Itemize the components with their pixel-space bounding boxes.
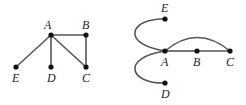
node-label-D: D [160,87,170,101]
edge-A-E [135,19,165,51]
node-D [48,64,53,69]
node-C [83,64,88,69]
node-E [13,64,18,69]
node-B [194,48,199,53]
node-label-A: A [43,18,52,32]
node-D [162,80,167,85]
right-graph: EABCD [135,1,235,101]
node-A [48,32,53,37]
graph-diagram: ABCDE EABCD [0,0,246,105]
edge-A-C [51,35,86,67]
node-label-D: D [46,71,56,85]
node-C [227,48,232,53]
node-E [162,16,167,21]
node-label-E: E [11,71,20,85]
left-graph: ABCDE [11,18,91,85]
node-label-E: E [160,1,169,15]
node-label-C: C [82,71,91,85]
node-A [162,48,167,53]
edge-A-E [16,35,51,67]
node-label-C: C [226,55,235,69]
node-B [83,32,88,37]
node-label-B: B [82,18,90,32]
node-label-A: A [160,55,169,69]
node-label-B: B [193,55,201,69]
